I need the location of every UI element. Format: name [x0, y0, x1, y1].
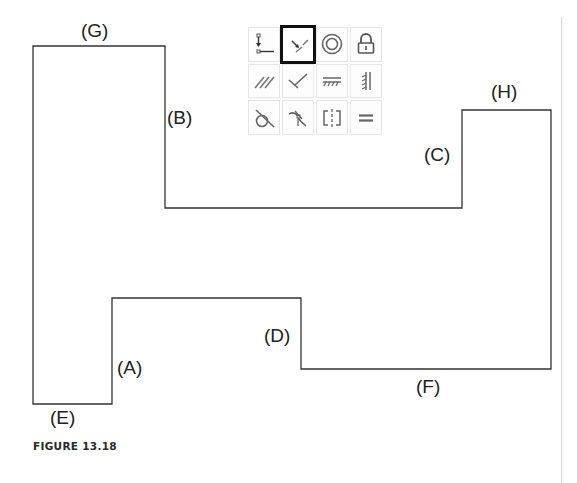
perpendicular-icon [286, 69, 310, 93]
coincident-icon [252, 32, 276, 56]
label-f: (F) [416, 377, 440, 396]
parallel-button[interactable] [248, 64, 280, 99]
fix-button[interactable] [350, 27, 382, 62]
figure-caption: FIGURE 13.18 [33, 440, 117, 452]
page-margin-rule [561, 17, 562, 483]
perpendicular-button[interactable] [282, 64, 314, 99]
equal-button[interactable] [350, 100, 382, 135]
smooth-button[interactable] [282, 100, 314, 135]
collinear-icon [286, 32, 310, 56]
vertical-button[interactable] [350, 64, 382, 99]
collinear-button[interactable] [280, 25, 316, 64]
constraint-toolbar [248, 27, 382, 135]
label-d: (D) [264, 326, 290, 345]
tangent-button[interactable] [248, 100, 280, 135]
symmetric-button[interactable] [316, 100, 348, 135]
equal-icon [354, 106, 378, 130]
parallel-icon [252, 69, 276, 93]
symmetric-icon [320, 106, 344, 130]
label-g: (G) [81, 21, 108, 40]
concentric-icon [320, 32, 344, 56]
label-c: (C) [424, 145, 450, 164]
label-e: (E) [50, 408, 75, 427]
vertical-icon [354, 69, 378, 93]
horizontal-button[interactable] [316, 64, 348, 99]
label-h: (H) [491, 82, 517, 101]
figure-canvas: (G) (B) (C) (H) (D) (A) (F) (E) FIGURE 1… [0, 0, 577, 483]
concentric-button[interactable] [316, 27, 348, 62]
lock-icon [354, 32, 378, 56]
coincident-button[interactable] [248, 27, 280, 62]
smooth-icon [286, 106, 310, 130]
label-b: (B) [167, 108, 192, 127]
tangent-icon [252, 106, 276, 130]
label-a: (A) [117, 358, 142, 377]
horizontal-icon [320, 69, 344, 93]
